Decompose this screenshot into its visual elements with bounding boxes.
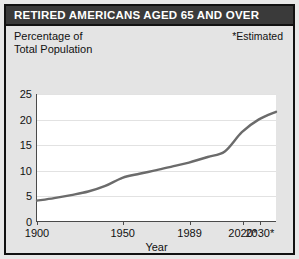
y-axis-tick-label: 10 bbox=[20, 165, 32, 177]
series-line-retired-americans bbox=[37, 112, 276, 201]
plot-area: 0510152025 1900195019892020*2030* Year bbox=[36, 94, 276, 222]
y-axis-caption-line2: Total Population bbox=[14, 43, 92, 56]
x-axis-tick-label: 1950 bbox=[110, 227, 134, 239]
y-axis-tick-label: 5 bbox=[26, 190, 32, 202]
y-axis-tick-label: 15 bbox=[20, 139, 32, 151]
x-axis-tick-mark bbox=[243, 221, 244, 225]
x-axis-tick-mark bbox=[260, 221, 261, 225]
x-axis-tick-mark bbox=[37, 221, 38, 225]
x-axis-label: Year bbox=[37, 241, 276, 253]
x-axis-tick-mark bbox=[190, 221, 191, 225]
x-axis-tick-label: 1900 bbox=[25, 227, 49, 239]
y-axis-tick-label: 20 bbox=[20, 114, 32, 126]
chart-title: RETIRED AMERICANS AGED 65 AND OVER bbox=[14, 9, 259, 21]
data-line-chart bbox=[37, 94, 276, 221]
x-axis-tick-label: 1989 bbox=[177, 227, 201, 239]
estimated-note: *Estimated bbox=[232, 30, 283, 42]
y-axis-caption-line1: Percentage of bbox=[14, 30, 92, 43]
chart-title-bar: RETIRED AMERICANS AGED 65 AND OVER bbox=[6, 6, 293, 26]
x-axis-tick-mark bbox=[123, 221, 124, 225]
chart-body: Percentage of Total Population *Estimate… bbox=[6, 26, 293, 253]
chart-frame: RETIRED AMERICANS AGED 65 AND OVER Perce… bbox=[4, 4, 295, 255]
chart-figure: RETIRED AMERICANS AGED 65 AND OVER Perce… bbox=[0, 0, 299, 259]
y-axis-caption: Percentage of Total Population bbox=[14, 30, 92, 55]
x-axis-tick-label: 2030* bbox=[245, 227, 274, 239]
y-axis-tick-label: 25 bbox=[20, 88, 32, 100]
